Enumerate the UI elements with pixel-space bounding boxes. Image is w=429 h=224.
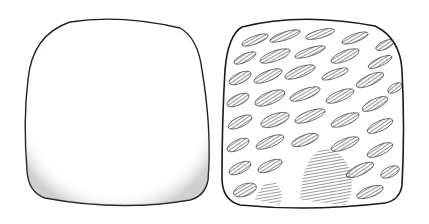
specimen-right-textured — [222, 19, 404, 208]
specimen-left-smooth — [25, 19, 209, 205]
illustration — [0, 0, 429, 224]
